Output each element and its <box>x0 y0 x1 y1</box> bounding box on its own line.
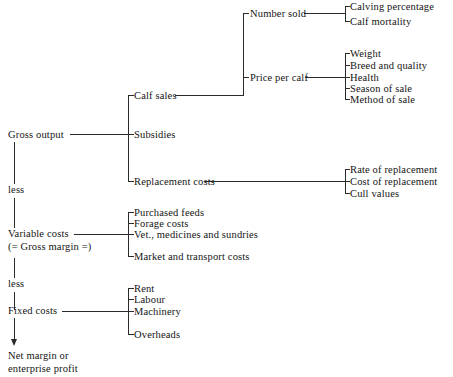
node-fixed-costs: Fixed costs <box>8 305 57 317</box>
connector-calf-sales-riser <box>243 77 244 96</box>
node-purchased-feeds: Purchased feeds <box>134 207 204 219</box>
spine-line-less-to-variable-costs <box>14 198 15 228</box>
arrowhead-down-icon <box>11 339 17 346</box>
node-gross-output: Gross output <box>8 129 64 141</box>
node-rate-of-replacement: Rate of replacement <box>350 164 437 176</box>
node-rent: Rent <box>134 283 154 295</box>
node-labour: Labour <box>134 294 165 306</box>
bracket-spine-gross-output <box>128 95 129 181</box>
connector-variable-costs-to-children <box>74 234 129 235</box>
node-cost-of-replacement: Cost of replacement <box>350 176 437 188</box>
node-gross-margin: (= Gross margin =) <box>8 241 91 253</box>
node-breed-and-quality: Breed and quality <box>350 60 427 72</box>
node-net-margin: Net margin or enterprise profit <box>8 350 78 375</box>
bracket-tick-replacement-costs <box>128 181 134 182</box>
label-less-2: less <box>8 278 24 290</box>
node-subsidies: Subsidies <box>134 129 176 141</box>
spine-line-variable-costs-to-less-2 <box>14 258 15 278</box>
node-overheads: Overheads <box>134 329 180 341</box>
bracket-tick-number-sold <box>243 13 249 14</box>
node-season-of-sale: Season of sale <box>350 83 412 95</box>
node-health: Health <box>350 72 379 84</box>
node-calf-sales: Calf sales <box>134 90 177 102</box>
spine-line-gross-output-to-less <box>14 142 15 184</box>
bracket-spine-price-per-calf <box>345 53 346 99</box>
connector-number-sold-to-children <box>304 13 346 14</box>
node-cull-values: Cull values <box>350 188 399 200</box>
connector-fixed-costs-to-children <box>62 311 129 312</box>
node-price-per-calf: Price per calf <box>250 72 308 84</box>
node-method-of-sale: Method of sale <box>350 94 415 106</box>
node-calving-percentage: Calving percentage <box>350 1 434 13</box>
node-replacement-costs: Replacement costs <box>134 176 215 188</box>
label-less-1: less <box>8 184 24 196</box>
bracket-spine-number-sold <box>345 6 346 22</box>
connector-calf-sales-to-children <box>175 95 244 96</box>
bracket-tick-calf-sales <box>128 95 134 96</box>
node-calf-mortality: Calf mortality <box>350 16 411 28</box>
node-variable-costs: Variable costs <box>8 228 69 240</box>
node-machinery: Machinery <box>134 306 181 318</box>
spine-line-fixed-costs-to-net-margin <box>14 318 15 341</box>
enterprise-budget-tree-diagram: Calving percentage Calf mortality Number… <box>0 0 453 377</box>
node-weight: Weight <box>350 48 381 60</box>
node-forage-costs: Forage costs <box>134 218 189 230</box>
node-vet-medicines-sundries: Vet., medicines and sundries <box>134 229 258 241</box>
connector-price-per-calf-to-children <box>305 77 346 78</box>
connector-replacement-costs-to-children <box>204 181 346 182</box>
bracket-spine-calf-sales <box>243 13 244 77</box>
connector-gross-output-to-children <box>70 134 129 135</box>
node-market-transport-costs: Market and transport costs <box>134 251 250 263</box>
node-number-sold: Number sold <box>250 8 306 20</box>
